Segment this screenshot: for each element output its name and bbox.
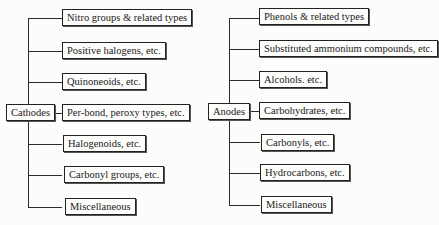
cathodes-child-halogenoids: Halogenoids, etc.	[63, 135, 146, 152]
cathodes-child-nitro: Nitro groups & related types	[62, 9, 192, 26]
cathodes-child-carbonyl-groups: Carbonyl groups, etc.	[64, 166, 164, 183]
anodes-child-miscellaneous: Miscellaneous	[261, 196, 332, 213]
branch-line	[28, 175, 62, 176]
anodes-child-carbonyls: Carbonyls, etc.	[261, 134, 334, 151]
branch-line	[229, 80, 260, 81]
anodes-child-hydrocarbons: Hydrocarbons, etc.	[260, 164, 350, 181]
anodes-root-box: Anodes	[208, 103, 250, 120]
cathodes-child-miscellaneous: Miscellaneous	[65, 198, 136, 215]
branch-line	[229, 173, 260, 174]
branch-line	[28, 18, 62, 19]
branch-line	[28, 82, 62, 83]
anodes-child-substituted-ammonium: Substituted ammonium compounds, etc.	[259, 40, 438, 57]
cathodes-child-per-bond: Per-bond, peroxy types, etc.	[62, 104, 190, 121]
anodes-child-carbohydrates: Carbohydrates, etc.	[259, 102, 350, 119]
branch-line	[28, 51, 62, 52]
branch-line	[229, 49, 260, 50]
cathodes-root-box: Cathodes	[6, 104, 55, 121]
cathodes-child-positive-halogens: Positive halogens, etc.	[62, 42, 166, 59]
branch-line	[28, 207, 62, 208]
branch-line	[28, 144, 62, 145]
cathodes-child-quinoneoids: Quinoneoids, etc.	[62, 73, 146, 90]
branch-line	[229, 18, 260, 19]
branch-line	[229, 205, 260, 206]
anodes-child-alcohols: Alcohols. etc.	[259, 71, 327, 88]
anodes-child-phenols: Phenols & related types	[259, 8, 369, 25]
branch-line	[229, 142, 260, 143]
